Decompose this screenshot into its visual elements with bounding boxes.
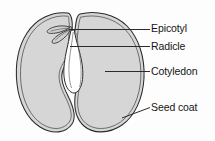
label-cotyledon: Cotyledon: [151, 66, 197, 77]
label-radicle: Radicle: [151, 41, 185, 52]
label-seed-coat: Seed coat: [151, 102, 197, 113]
label-epicotyl: Epicotyl: [151, 23, 187, 34]
seed-structure-diagram: Epicotyl Radicle Cotyledon Seed coat: [0, 0, 215, 141]
